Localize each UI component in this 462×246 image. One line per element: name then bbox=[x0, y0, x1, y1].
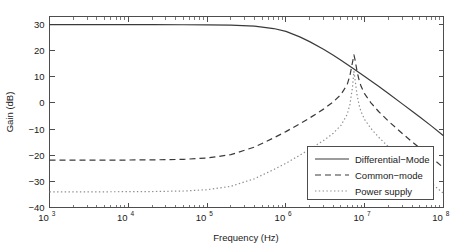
svg-text:10: 10 bbox=[275, 212, 286, 223]
svg-text:5: 5 bbox=[209, 210, 213, 217]
y-tick-label: −30 bbox=[28, 176, 44, 187]
legend-label-1: Common−mode bbox=[355, 170, 423, 181]
y-tick-label: −20 bbox=[28, 150, 44, 161]
svg-text:10: 10 bbox=[117, 212, 128, 223]
svg-text:3: 3 bbox=[52, 210, 56, 217]
x-axis-title: Frequency (Hz) bbox=[213, 232, 278, 243]
svg-text:6: 6 bbox=[288, 210, 292, 217]
svg-text:10: 10 bbox=[38, 212, 49, 223]
svg-text:8: 8 bbox=[446, 210, 450, 217]
y-tick-label: 10 bbox=[34, 71, 45, 82]
figure-container: 103104105106107108 3020100−10−20−30−40 F… bbox=[0, 0, 462, 246]
y-tick-label: −10 bbox=[28, 124, 44, 135]
svg-text:10: 10 bbox=[196, 212, 207, 223]
y-tick-label: 20 bbox=[34, 45, 45, 56]
svg-text:4: 4 bbox=[130, 210, 134, 217]
svg-text:10: 10 bbox=[432, 212, 443, 223]
gain-vs-frequency-chart: 103104105106107108 3020100−10−20−30−40 F… bbox=[0, 0, 462, 246]
legend-label-2: Power supply bbox=[355, 186, 412, 197]
y-tick-label: 30 bbox=[34, 19, 45, 30]
chart-background bbox=[0, 0, 462, 246]
legend-label-0: Differential−Mode bbox=[355, 154, 430, 165]
y-axis-title: Gain (dB) bbox=[4, 92, 15, 133]
y-tick-label: −40 bbox=[28, 202, 44, 213]
svg-text:7: 7 bbox=[367, 210, 371, 217]
chart-legend[interactable]: Differential−ModeCommon−modePower supply bbox=[308, 147, 434, 200]
svg-text:10: 10 bbox=[353, 212, 364, 223]
y-tick-label: 0 bbox=[39, 97, 44, 108]
